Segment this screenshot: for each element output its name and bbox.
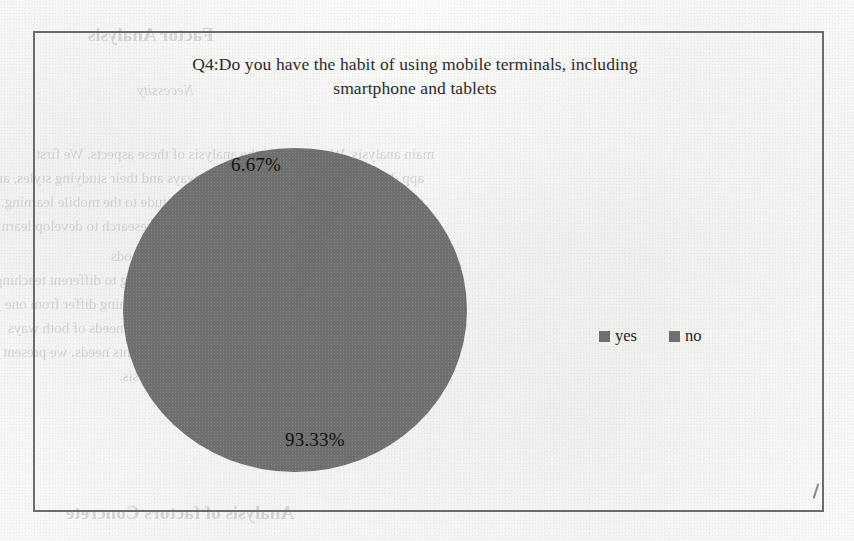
chart-frame: Q4:Do you have the habit of using mobile…: [33, 31, 824, 512]
legend-item-no[interactable]: no: [669, 326, 702, 346]
pie-slices: [123, 148, 467, 472]
legend-swatch-icon: [599, 331, 610, 342]
stray-pen-mark: [813, 483, 820, 499]
chart-title: Q4:Do you have the habit of using mobile…: [115, 53, 715, 100]
legend-item-yes[interactable]: yes: [599, 326, 637, 346]
chart-title-line-1: Q4:Do you have the habit of using mobile…: [192, 54, 637, 74]
scanned-page: Factor Analysis Necessity main analysis.…: [0, 0, 854, 541]
legend-swatch-icon: [669, 331, 680, 342]
legend-label-no: no: [685, 326, 702, 346]
slice-label-yes: 6.67%: [231, 154, 281, 176]
slice-label-no: 93.33%: [285, 429, 345, 451]
chart-title-line-2: smartphone and tablets: [333, 78, 497, 98]
chart-legend: yes no: [599, 326, 702, 346]
pie-chart: [123, 148, 467, 472]
legend-label-yes: yes: [615, 326, 637, 346]
